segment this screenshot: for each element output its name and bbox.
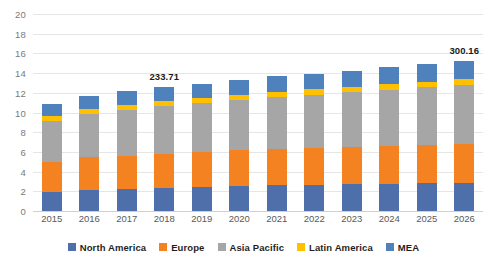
legend-item-north-america[interactable]: North America [68,242,146,253]
legend-label: Asia Pacific [230,242,285,253]
bar-2023[interactable] [342,71,362,211]
bar-segment-europe[interactable] [229,150,249,186]
bar-segment-mea[interactable] [417,64,437,82]
legend-swatch-icon [68,243,76,251]
bar-segment-asia-pacific[interactable] [417,87,437,145]
bar-2024[interactable] [379,67,399,211]
bar-segment-north-america[interactable] [79,190,99,211]
gridline-14 [33,73,483,74]
legend-item-asia-pacific[interactable]: Asia Pacific [218,242,285,253]
gridline-18 [33,34,483,35]
legend-item-latin-america[interactable]: Latin America [297,242,373,253]
x-tick-label-2024: 2024 [379,213,400,224]
bar-segment-europe[interactable] [379,146,399,184]
bar-segment-europe[interactable] [42,162,62,192]
bar-2025[interactable] [417,64,437,211]
y-axis: 20181614121086420 [0,0,30,215]
legend-swatch-icon [386,243,394,251]
bar-segment-north-america[interactable] [42,192,62,211]
bar-segment-europe[interactable] [304,148,324,185]
bar-2016[interactable] [79,96,99,211]
bar-segment-mea[interactable] [342,71,362,87]
bar-segment-asia-pacific[interactable] [454,85,474,144]
bar-2015[interactable] [42,104,62,211]
bar-segment-north-america[interactable] [379,184,399,211]
bar-segment-europe[interactable] [267,149,287,185]
bar-segment-europe[interactable] [192,152,212,187]
legend-swatch-icon [159,243,167,251]
gridline-6 [33,152,483,153]
x-tick-label-2020: 2020 [229,213,250,224]
bar-segment-mea[interactable] [154,87,174,101]
bar-segment-mea[interactable] [379,67,399,84]
bar-segment-mea[interactable] [192,84,212,98]
bar-segment-north-america[interactable] [454,183,474,211]
bar-segment-europe[interactable] [79,157,99,190]
x-tick-label-2022: 2022 [304,213,325,224]
gridline-16 [33,53,483,54]
gridline-0 [33,211,483,212]
y-tick-label: 18 [15,28,26,39]
data-label-2018: 233.71 [149,71,179,82]
bar-2022[interactable] [304,74,324,211]
y-tick-label: 12 [15,87,26,98]
bar-segment-europe[interactable] [342,147,362,184]
bar-segment-north-america[interactable] [192,187,212,211]
bar-segment-north-america[interactable] [304,185,324,211]
legend-item-europe[interactable]: Europe [159,242,204,253]
bar-segment-europe[interactable] [417,145,437,183]
bar-segment-asia-pacific[interactable] [117,110,137,157]
plot-area [33,14,483,211]
legend-label: MEA [398,242,419,253]
bar-2019[interactable] [192,84,212,211]
bar-segment-north-america[interactable] [267,185,287,211]
gridline-8 [33,132,483,133]
bar-segment-mea[interactable] [42,104,62,116]
bar-segment-mea[interactable] [79,96,99,109]
bar-segment-mea[interactable] [267,76,287,91]
gridline-4 [33,172,483,173]
bar-segment-north-america[interactable] [342,184,362,211]
bar-segment-europe[interactable] [454,144,474,183]
bar-segment-north-america[interactable] [154,188,174,211]
legend-item-mea[interactable]: MEA [386,242,419,253]
bar-2020[interactable] [229,80,249,211]
bar-segment-europe[interactable] [154,154,174,188]
bar-segment-asia-pacific[interactable] [154,106,174,154]
bar-segment-mea[interactable] [304,74,324,90]
y-tick-label: 14 [15,68,26,79]
bar-segment-asia-pacific[interactable] [229,100,249,151]
x-tick-label-2015: 2015 [41,213,62,224]
bar-2021[interactable] [267,76,287,211]
legend-label: Latin America [309,242,373,253]
bar-segment-mea[interactable] [229,80,249,95]
bar-segment-mea[interactable] [454,61,474,79]
legend-swatch-icon [218,243,226,251]
bar-segment-north-america[interactable] [117,189,137,211]
x-tick-label-2016: 2016 [79,213,100,224]
y-tick-label: 8 [21,127,26,138]
bar-segment-europe[interactable] [117,156,137,189]
bar-2018[interactable] [154,87,174,211]
bar-segment-asia-pacific[interactable] [192,103,212,152]
bar-segment-north-america[interactable] [417,183,437,211]
bar-2026[interactable] [454,61,474,211]
bar-segment-asia-pacific[interactable] [304,95,324,148]
x-tick-label-2025: 2025 [416,213,437,224]
bar-segment-mea[interactable] [117,91,137,105]
bar-segment-asia-pacific[interactable] [79,114,99,158]
bar-segment-asia-pacific[interactable] [342,92,362,147]
y-tick-label: 20 [15,9,26,20]
bar-segment-asia-pacific[interactable] [42,121,62,161]
chart-legend: North AmericaEuropeAsia PacificLatin Ame… [0,238,487,256]
x-tick-label-2021: 2021 [266,213,287,224]
legend-label: Europe [171,242,204,253]
bar-segment-asia-pacific[interactable] [379,90,399,146]
bar-2017[interactable] [117,91,137,211]
bar-segment-north-america[interactable] [229,186,249,211]
x-tick-label-2017: 2017 [116,213,137,224]
bar-segment-asia-pacific[interactable] [267,97,287,149]
gridline-12 [33,93,483,94]
x-tick-label-2019: 2019 [191,213,212,224]
y-tick-label: 6 [21,146,26,157]
